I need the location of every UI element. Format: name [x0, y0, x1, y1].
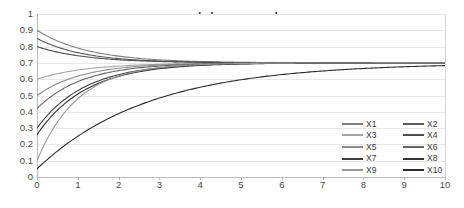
x-axis-tick-mark — [445, 177, 446, 180]
x-axis-tick-mark — [119, 177, 120, 180]
y-axis-tick-labels: 00.10.20.30.40.50.60.70.80.91 — [0, 0, 33, 208]
x-axis-tick-mark — [78, 177, 79, 180]
x-axis-tick-labels: 012345678910 — [0, 180, 464, 200]
series-line-x6 — [37, 63, 445, 109]
legend-label: X6 — [427, 143, 437, 152]
legend-label: X2 — [427, 120, 437, 129]
y-axis-tick-label: 1 — [28, 9, 33, 19]
x-axis-tick-label: 3 — [157, 180, 162, 190]
x-axis-tick-label: 4 — [198, 180, 203, 190]
x-axis-tick-mark — [363, 177, 364, 180]
series-line-x2 — [37, 38, 445, 62]
legend-label: X4 — [427, 131, 437, 140]
y-axis-tick-label: 0.6 — [20, 74, 33, 84]
x-axis-tick-label: 8 — [361, 180, 366, 190]
legend-item-x9[interactable]: X9 — [342, 166, 399, 175]
y-axis-tick-label: 0.5 — [20, 91, 33, 101]
legend-item-x7[interactable]: X7 — [342, 154, 399, 163]
legend-item-x8[interactable]: X8 — [403, 154, 460, 163]
legend-item-x3[interactable]: X3 — [342, 131, 399, 140]
series-line-x4 — [37, 47, 445, 63]
x-axis-tick-label: 5 — [238, 180, 243, 190]
legend-label: X3 — [366, 131, 376, 140]
x-axis-tick-label: 2 — [116, 180, 121, 190]
legend-label: X7 — [366, 154, 376, 163]
x-axis-tick-label: 10 — [440, 180, 451, 190]
x-axis-tick-mark — [241, 177, 242, 180]
x-axis-tick-mark — [37, 177, 38, 180]
chart-legend: X1X2X3X4X5X6X7X8X9X10 — [342, 118, 460, 176]
legend-swatch-x8 — [403, 158, 424, 160]
legend-swatch-x7 — [342, 158, 363, 160]
y-axis-tick-label: 0.7 — [20, 58, 33, 68]
x-axis-tick-label: 7 — [320, 180, 325, 190]
legend-item-x1[interactable]: X1 — [342, 120, 399, 129]
y-axis-tick-label: 0.9 — [20, 26, 33, 36]
x-axis-tick-mark — [159, 177, 160, 180]
legend-item-x10[interactable]: X10 — [403, 166, 460, 175]
legend-label: X1 — [366, 120, 376, 129]
legend-label: X8 — [427, 154, 437, 163]
legend-swatch-x9 — [342, 169, 363, 171]
legend-item-x2[interactable]: X2 — [403, 120, 460, 129]
legend-swatch-x4 — [403, 134, 424, 136]
legend-swatch-x2 — [403, 123, 424, 125]
legend-swatch-x5 — [342, 146, 363, 148]
x-axis-tick-mark — [404, 177, 405, 180]
x-axis-tick-label: 9 — [402, 180, 407, 190]
legend-swatch-x1 — [342, 123, 363, 125]
x-axis-tick-mark — [200, 177, 201, 180]
legend-label: X5 — [366, 143, 376, 152]
legend-swatch-x10 — [403, 169, 424, 171]
x-axis-tick-label: 0 — [34, 180, 39, 190]
x-axis-tick-label: 1 — [75, 180, 80, 190]
legend-item-x4[interactable]: X4 — [403, 131, 460, 140]
legend-swatch-x3 — [342, 134, 363, 136]
y-axis-tick-label: 0.3 — [20, 123, 33, 133]
x-axis-tick-mark — [323, 177, 324, 180]
chart-container: scaled max example 00.10.20.30.40.50.60.… — [0, 0, 464, 208]
legend-item-x6[interactable]: X6 — [403, 143, 460, 152]
x-axis-tick-mark — [282, 177, 283, 180]
legend-item-x5[interactable]: X5 — [342, 143, 399, 152]
y-axis-tick-label: 0.2 — [20, 140, 33, 150]
x-axis-tick-label: 6 — [279, 180, 284, 190]
legend-label: X9 — [366, 166, 376, 175]
legend-swatch-x6 — [403, 146, 424, 148]
legend-label: X10 — [427, 166, 442, 175]
y-axis-tick-label: 0.1 — [20, 156, 33, 166]
y-axis-tick-label: 0.4 — [20, 107, 33, 117]
y-axis-tick-label: 0.8 — [20, 42, 33, 52]
